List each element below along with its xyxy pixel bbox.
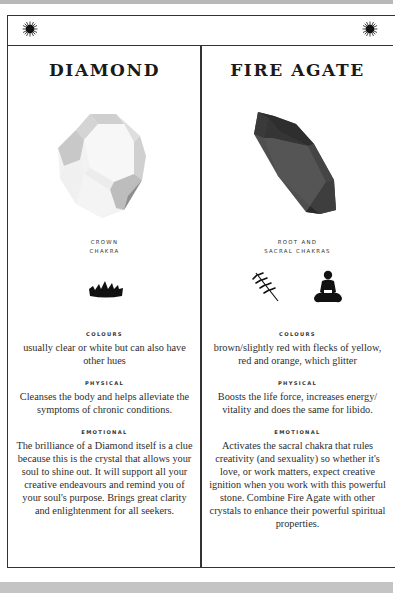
page-top-edge — [0, 0, 393, 4]
crescent-moon-icon — [196, 21, 210, 42]
sun-icon — [362, 21, 378, 41]
crystal-title: DIAMOND — [9, 60, 200, 80]
emotional-label: EMOTIONAL — [9, 429, 200, 435]
emotional-text: The brilliance of a Diamond itself is a … — [15, 439, 194, 517]
colours-text: usually clear or white but can also have… — [15, 341, 194, 367]
physical-text: Cleanses the body and helps alleviate th… — [15, 390, 194, 416]
diamond-crystal-image — [54, 108, 154, 222]
chakra-label: ROOT AND SACRAL CHAKRAS — [202, 238, 393, 256]
chakra-label-line-2: CHAKRA — [9, 247, 200, 256]
crystal-title: FIRE AGATE — [202, 60, 393, 80]
sun-icon — [22, 21, 38, 41]
wheat-sprig-icon — [252, 271, 282, 307]
crystal-card-fire-agate: FIRE AGATE ROOT AND SACRAL CHAKRAS — [202, 46, 393, 566]
chakra-label: CROWN CHAKRA — [9, 238, 200, 256]
fire-agate-crystal-image — [250, 108, 350, 222]
emotional-text: Activates the sacral chakra that rules c… — [208, 439, 387, 530]
colours-label: COLOURS — [202, 331, 393, 337]
crystal-card-diamond: DIAMOND CROWN CHAKRA COLOURS usually cle… — [9, 46, 200, 566]
chakra-label-line-2: SACRAL CHAKRAS — [202, 247, 393, 256]
emotional-label: EMOTIONAL — [202, 429, 393, 435]
physical-label: PHYSICAL — [202, 380, 393, 386]
physical-text: Boosts the life force, increases energy/… — [208, 390, 387, 416]
meditating-figure-icon — [312, 270, 344, 308]
colours-text: brown/slightly red with flecks of yellow… — [208, 341, 387, 367]
chakra-label-line-1: CROWN — [9, 238, 200, 247]
colours-label: COLOURS — [9, 331, 200, 337]
header-band — [7, 15, 393, 46]
chakra-label-line-1: ROOT AND — [202, 238, 393, 247]
page-bottom-edge — [0, 582, 393, 593]
physical-label: PHYSICAL — [9, 380, 200, 386]
crown-icon — [89, 279, 123, 303]
